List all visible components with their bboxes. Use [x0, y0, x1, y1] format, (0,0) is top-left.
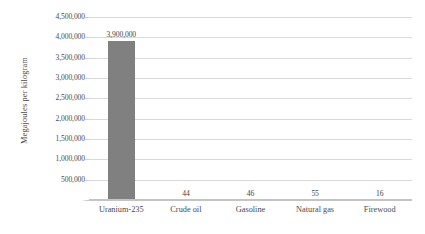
gridline [89, 200, 412, 201]
gridline [89, 17, 412, 18]
bar-data-label: 3,900,000 [91, 30, 151, 39]
y-axis-tick-label: 2,500,000 [30, 94, 85, 102]
gridline [89, 98, 412, 99]
gridline [89, 58, 412, 59]
y-axis-tick-mark [85, 98, 89, 99]
y-axis-tick-label: 500,000 [30, 176, 85, 184]
y-axis-tick-label: 1,000,000 [30, 155, 85, 163]
y-axis-title-text: Megajoules per kilogram [20, 57, 29, 144]
bar-data-label: 16 [350, 189, 410, 198]
y-axis-tick-label: - [30, 196, 85, 204]
y-axis-tick-mark [85, 58, 89, 59]
x-axis-category-label: Crude oil [154, 204, 219, 216]
y-axis-tick-mark [85, 37, 89, 38]
x-axis-category-label: Gasoline [218, 204, 283, 216]
x-axis-category-labels: Uranium-235Crude oilGasolineNatural gasF… [89, 204, 412, 224]
y-axis-tick-mark [85, 159, 89, 160]
bar-data-label: 55 [285, 189, 345, 198]
y-axis-tick-mark [85, 180, 89, 181]
gridline [89, 119, 412, 120]
bar[interactable] [108, 41, 135, 200]
y-axis-tick-mark [85, 200, 89, 201]
energy-density-bar-chart: Megajoules per kilogram 4,500,0004,000,0… [0, 0, 425, 234]
y-axis-tick-mark [85, 17, 89, 18]
y-axis-tick-label: 2,000,000 [30, 115, 85, 123]
y-axis-tick-label: 3,000,000 [30, 74, 85, 82]
x-axis-line [89, 199, 412, 200]
x-axis-category-label: Uranium-235 [89, 204, 154, 216]
y-axis-tick-mark [85, 78, 89, 79]
gridline [89, 139, 412, 140]
gridline [89, 159, 412, 160]
gridline [89, 180, 412, 181]
bar-data-label: 46 [221, 189, 281, 198]
y-axis-tick-mark [85, 139, 89, 140]
y-axis-tick-label: 4,000,000 [30, 33, 85, 41]
x-axis-category-label: Natural gas [283, 204, 348, 216]
gridline [89, 78, 412, 79]
plot-area [89, 17, 412, 200]
x-axis-category-label: Firewood [347, 204, 412, 216]
y-axis-tick-label: 1,500,000 [30, 135, 85, 143]
y-axis-tick-labels: 4,500,0004,000,0003,500,0003,000,0002,50… [30, 0, 85, 210]
y-axis-tick-label: 3,500,000 [30, 54, 85, 62]
bar-data-label: 44 [156, 189, 216, 198]
y-axis-tick-mark [85, 119, 89, 120]
y-axis-tick-label: 4,500,000 [30, 13, 85, 21]
